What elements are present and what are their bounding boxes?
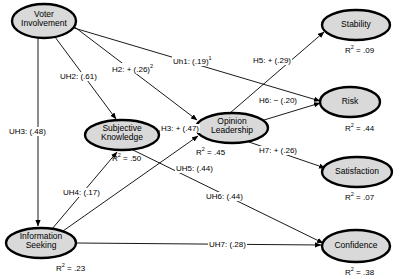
path-label-h3: H3: + (.47) xyxy=(160,124,200,133)
path-label-uh6: UH6: (.44) xyxy=(205,192,244,201)
path-diagram-canvas: Voter Involvement Subjective Knowledge I… xyxy=(0,0,401,279)
r-squared-confidence: R2 = .38 xyxy=(345,266,374,277)
node-confidence xyxy=(322,230,390,262)
path-label-uh4: UH4: (.17) xyxy=(62,188,101,197)
node-group xyxy=(6,4,392,262)
path-label-h6: H6: − (.20) xyxy=(258,96,298,105)
r-squared-information-seeking: R2 = .23 xyxy=(56,262,85,273)
r-squared-stability: R2 = .09 xyxy=(345,44,374,55)
edge-information-seeking-to-confidence xyxy=(76,243,321,245)
node-satisfaction xyxy=(322,157,392,187)
r-squared-satisfaction: R2 = .07 xyxy=(345,191,374,202)
r-squared-risk: R2 = .44 xyxy=(345,122,374,133)
r-squared-opinion-leadership: R2 = .45 xyxy=(196,146,225,157)
path-label-uh5: UH5: (.44) xyxy=(175,164,214,173)
path-label-uh7: UH7: (.28) xyxy=(208,240,247,249)
r-squared-subjective-knowledge: R2 = .50 xyxy=(112,152,141,163)
node-subjective-knowledge xyxy=(85,120,159,150)
edge-opinion-leadership-to-risk xyxy=(264,103,320,120)
path-label-h5: H5: + (.29) xyxy=(252,56,292,65)
node-information-seeking xyxy=(6,228,76,258)
path-label-uh3: UH3: (.48) xyxy=(8,127,47,136)
path-label-h2: H2: + (.26)2 xyxy=(111,63,154,74)
node-stability xyxy=(322,10,390,40)
diagram-vector-layer xyxy=(0,0,401,279)
node-opinion-leadership xyxy=(196,113,268,143)
path-label-uh2: UH2: (.61) xyxy=(59,72,98,81)
node-risk xyxy=(320,87,380,117)
path-label-uh1: Uh1: (.19)1 xyxy=(172,55,213,66)
node-voter-involvement xyxy=(12,4,76,38)
path-label-h7: H7: + (.26) xyxy=(258,146,298,155)
